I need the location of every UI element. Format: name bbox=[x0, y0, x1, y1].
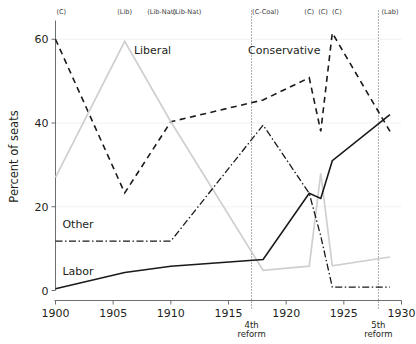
series-line-conservative bbox=[56, 33, 390, 193]
x-tick-label-1905: 1905 bbox=[99, 307, 127, 320]
series-label-conservative: Conservative bbox=[248, 44, 321, 57]
top-annotation-1: (C) bbox=[56, 8, 66, 16]
x-tick-label-1930: 1930 bbox=[388, 307, 416, 320]
top-annotation-7: (C) bbox=[318, 8, 328, 16]
x-tick-label-1920: 1920 bbox=[272, 307, 300, 320]
chart-container: 4threform5threform 020406019001905191019… bbox=[0, 0, 416, 344]
series-layer bbox=[56, 33, 390, 289]
grid-layer bbox=[56, 39, 402, 207]
labels-layer: LiberalConservativeOtherLabor(C)(Lib)(Li… bbox=[56, 8, 398, 278]
y-tick-label-0: 0 bbox=[42, 285, 49, 298]
x-tick-label-1910: 1910 bbox=[157, 307, 185, 320]
top-annotation-6: (C) bbox=[304, 8, 314, 16]
reform-label-2-line2: reform bbox=[364, 329, 392, 339]
x-tick-label-1925: 1925 bbox=[330, 307, 358, 320]
series-line-labor bbox=[56, 115, 390, 289]
x-tick-label-1915: 1915 bbox=[215, 307, 243, 320]
series-label-liberal: Liberal bbox=[134, 44, 171, 57]
line-chart-plot: 4threform5threform 020406019001905191019… bbox=[0, 0, 416, 344]
series-label-other: Other bbox=[62, 218, 94, 231]
y-tick-label-20: 20 bbox=[35, 201, 49, 214]
y-tick-label-60: 60 bbox=[35, 33, 49, 46]
top-annotation-5: (C-Coal) bbox=[252, 8, 279, 16]
top-annotation-9: (Lab) bbox=[381, 8, 398, 16]
y-tick-label-40: 40 bbox=[35, 117, 49, 130]
y-axis-title: Percent of seats bbox=[7, 110, 21, 202]
top-annotation-8: (C) bbox=[332, 8, 342, 16]
reform-marker-layer: 4threform5threform bbox=[237, 11, 392, 339]
reform-label-1-line2: reform bbox=[237, 329, 265, 339]
series-label-labor: Labor bbox=[62, 265, 94, 278]
top-annotation-4: (Lib-Nat) bbox=[173, 8, 202, 16]
x-tick-label-1900: 1900 bbox=[42, 307, 70, 320]
top-annotation-2: (Lib) bbox=[117, 8, 132, 16]
series-line-liberal bbox=[56, 41, 390, 270]
